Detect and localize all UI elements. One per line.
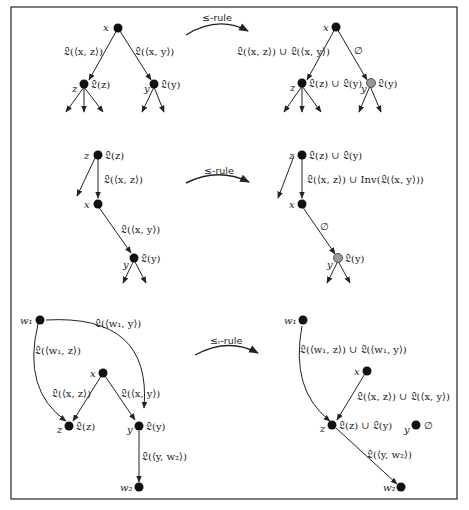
edge-label-x-z: 𝔏(⟨x, z⟩) ∪ 𝔏(⟨x, y⟩) [357,391,450,402]
node-y [130,254,139,263]
node-label-y: ∅ [424,420,433,431]
edge-z-child [278,156,294,198]
edge-z-child3 [84,87,103,112]
tableau-expansion-rules-figure: x z y 𝔏(z) 𝔏(y) 𝔏(⟨x, z⟩) 𝔏(⟨x, y⟩) ≤-ru… [0,0,469,510]
edge-label-y-w2: 𝔏(⟨y, w₂⟩) [142,451,187,462]
panel2-left-tree: z x y 𝔏(z) 𝔏(y) 𝔏(⟨x, z⟩) 𝔏(⟨x, y⟩) [77,150,161,283]
node-z [80,80,89,89]
node-x [99,369,108,378]
node-label-y: 𝔏(y) [378,78,398,89]
node-y [150,80,159,89]
node-name-z: z [83,150,90,161]
node-name-w1: w₁ [284,315,297,326]
node-x [363,367,372,376]
node-w2 [397,483,406,492]
node-label-z: 𝔏(z) [76,421,95,432]
node-y-detached [412,421,421,430]
node-label-y: 𝔏(y) [146,421,166,432]
node-y [135,422,144,431]
node-name-y: y [126,424,133,435]
edge-z-child3 [302,86,321,112]
edge-label-x-y: ∅ [320,221,329,232]
node-name-x: x [289,199,295,210]
edge-label-w1-z: 𝔏(⟨w₁, z⟩) ∪ 𝔏(⟨w₁, y⟩) [300,344,407,355]
node-x [114,24,123,33]
node-label-z: 𝔏(z) ∪ 𝔏(y) [309,78,362,89]
panel3-right-graph: w₁ x z y w₂ 𝔏(z) ∪ 𝔏(y) ∅ 𝔏(⟨w₁, z⟩) ∪ 𝔏… [284,315,450,493]
edge-label-x-y: ∅ [354,45,363,56]
node-z [328,421,337,430]
panel2-right-tree: z x y 𝔏(z) ∪ 𝔏(y) 𝔏(y) 𝔏(⟨x, z⟩) ∪ Inv(𝔏… [278,150,424,283]
node-name-x: x [354,366,360,377]
node-w2 [135,483,144,492]
node-name-z: z [56,424,63,435]
node-name-y: y [143,83,150,94]
node-name-x: x [84,199,90,210]
node-x [332,23,341,32]
node-label-y: 𝔏(y) [141,253,161,264]
edge-label-w1-y: 𝔏(⟨w₁, y⟩) [95,318,141,329]
edge-w1-z [299,326,330,421]
node-label-z: 𝔏(z) [91,79,110,90]
edge-label-z-x: 𝔏(⟨x, z⟩) [104,174,143,185]
edge-label-z-w2: 𝔏(⟨y, w₂⟩) [367,449,412,460]
rule-arrow-1: ≤-rule [186,12,248,35]
node-z [298,151,307,160]
edge-y-child2 [338,261,350,283]
edge-label-z-x: 𝔏(⟨x, z⟩) ∪ Inv(𝔏(⟨x, y⟩)) [307,174,424,185]
node-name-z: z [289,82,296,93]
edge-label-x-z: 𝔏(⟨x, z⟩) [52,388,91,399]
panel1-right-tree: x z y 𝔏(z) ∪ 𝔏(y) 𝔏(y) 𝔏(⟨x, z⟩) ∪ 𝔏(⟨x,… [237,22,398,112]
node-x [298,200,307,209]
panel3-left-graph: w₁ x z y w₂ 𝔏(z) 𝔏(y) 𝔏(⟨w₁, y⟩) 𝔏(⟨w₁, … [20,315,187,493]
edge-label-x-y: 𝔏(⟨x, y⟩) [121,388,160,399]
node-z [298,79,307,88]
node-label-z: 𝔏(z) ∪ 𝔏(y) [339,420,392,431]
node-x [94,200,103,209]
edge-w1-z [34,324,66,421]
edge-label-x-z: 𝔏(⟨x, z⟩) ∪ 𝔏(⟨x, y⟩) [237,46,330,57]
node-label-y: 𝔏(y) [345,253,365,264]
node-name-z: z [71,83,78,94]
node-z [94,151,103,160]
edge-x-y [302,206,335,254]
node-name-y: y [122,259,129,270]
edge-label-x-y: 𝔏(⟨x, y⟩) [135,46,174,57]
node-name-w1: w₁ [20,315,33,326]
node-name-z: z [319,423,326,434]
node-w1 [299,316,308,325]
node-name-z: z [288,150,295,161]
rule-label-3: ≤ᵣ-rule [210,335,242,346]
node-y-blocked [367,79,376,88]
node-name-w2: w₂ [120,482,133,493]
edge-label-w1-z: 𝔏(⟨w₁, z⟩) [35,345,81,356]
rule-arrow-3: ≤ᵣ-rule [195,335,258,355]
edge-y-child2 [370,86,381,112]
node-label-z: 𝔏(z) ∪ 𝔏(y) [309,150,362,161]
node-w1 [36,316,45,325]
node-name-x: x [103,22,109,33]
edge-y-child2 [154,87,164,112]
node-name-y: y [403,424,410,435]
node-label-y: 𝔏(y) [161,79,181,90]
rule-label-1: ≤-rule [202,12,232,23]
node-name-w2: w₂ [383,482,396,493]
node-name-x: x [90,368,96,379]
node-y-blocked [334,254,343,263]
edge-label-x-z: 𝔏(⟨x, z⟩) [64,46,103,57]
node-name-y: y [326,259,333,270]
rule-arrow-2: ≤-rule [186,165,249,183]
edge-z-child [77,156,96,196]
edge-label-x-y: 𝔏(⟨x, y⟩) [121,224,160,235]
panel1-left-tree: x z y 𝔏(z) 𝔏(y) 𝔏(⟨x, z⟩) 𝔏(⟨x, y⟩) [64,22,181,112]
node-name-x: x [323,22,329,33]
node-label-z: 𝔏(z) [105,150,124,161]
node-z [65,422,74,431]
